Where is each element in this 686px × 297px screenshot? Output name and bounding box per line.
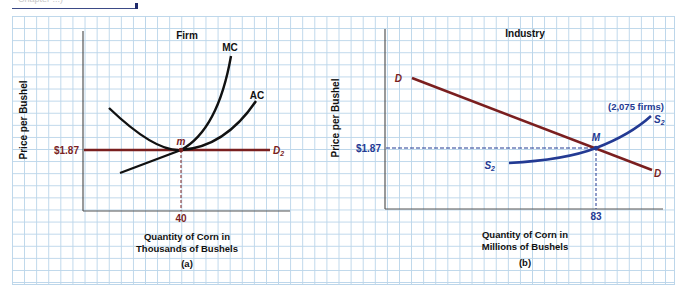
s2-label-top: S2 (654, 114, 665, 126)
firm-x-axis-label-line1: Quantity of Corn in (144, 231, 230, 242)
ac-label: AC (250, 90, 264, 101)
firm-title: Firm (176, 30, 198, 41)
industry-x-axis-label-line2: Millions of Bushels (482, 241, 569, 252)
firm-panel-label: (a) (181, 258, 193, 269)
point-M-label: M (592, 132, 601, 143)
s2-label-bottom: S2 (484, 160, 495, 172)
industry-x-axis-label-line1: Quantity of Corn in (482, 229, 568, 240)
panel-firm: Firm MC AC m D2 $1.87 40 Price per Bushe… (18, 30, 290, 269)
industry-title: Industry (505, 28, 545, 39)
firm-x-axis-label-line2: Thousands of Bushels (136, 243, 238, 254)
firm-count-annotation: (2,075 firms) (608, 101, 664, 112)
figure: Firm MC AC m D2 $1.87 40 Price per Bushe… (0, 0, 686, 297)
panel-industry: Industry D D M (2,075 firms) S2 S2 $1.87… (330, 28, 665, 268)
mc-label: MC (222, 42, 238, 53)
firm-quantity-tick: 40 (175, 213, 187, 224)
industry-price-label: $1.87 (356, 143, 381, 154)
firm-equilibrium-point (179, 148, 184, 153)
d2-label: D2 (273, 145, 284, 157)
firm-price-label: $1.87 (54, 145, 79, 156)
industry-demand-line (412, 78, 652, 170)
firm-y-axis-label: Price per Bushel (18, 80, 29, 159)
industry-equilibrium-point (594, 146, 599, 151)
point-m-label: m (177, 136, 186, 147)
firm-mc-curve (120, 56, 231, 173)
demand-label-top: D (395, 73, 402, 84)
industry-panel-label: (b) (519, 257, 531, 268)
industry-quantity-tick: 83 (590, 211, 602, 222)
demand-label-bottom: D (654, 168, 661, 179)
industry-y-axis-label: Price per Bushel (330, 78, 341, 157)
